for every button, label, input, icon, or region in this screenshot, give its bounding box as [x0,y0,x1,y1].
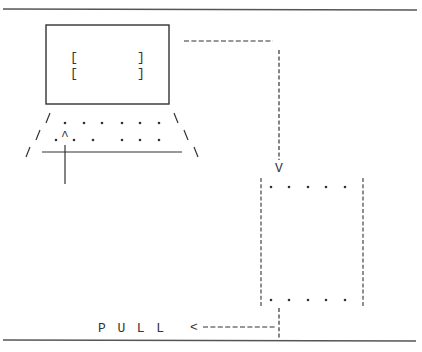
cursor-caret-icon: ^ [61,129,69,144]
arrow-left-head-icon: < [190,320,198,335]
computer-icon: [ ] [ ] [26,25,198,184]
diagram-canvas: [ ] [ ] [0,0,422,352]
bottom-rule [3,340,416,341]
target-box-bottom-dots [270,299,347,302]
arrow-down-head-icon: V [275,161,283,176]
screen-bracket-right-1: ] [137,50,145,65]
screen-bracket-left-2: [ [70,66,78,81]
pull-label: P U L L [98,321,164,336]
flow-arrow-out [184,41,279,160]
target-box [261,178,363,306]
keyboard-keys-row-1 [64,122,161,125]
screen-bracket-right-2: ] [137,66,145,81]
top-rule [3,9,417,10]
keyboard-outline [26,113,198,157]
keyboard-keys-row-2 [55,139,161,142]
flow-arrow-return [203,308,279,338]
target-box-top-dots [270,186,347,189]
monitor-frame [46,25,169,104]
screen-bracket-left-1: [ [70,50,78,65]
diagram-svg: [ ] [ ] [0,0,422,352]
